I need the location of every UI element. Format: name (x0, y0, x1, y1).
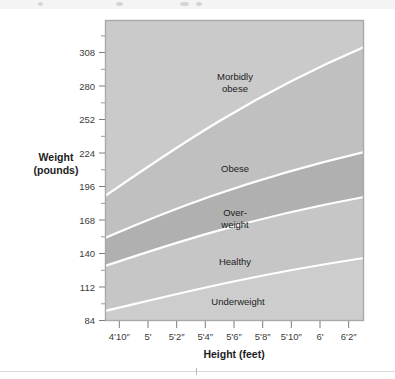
x-axis-title: Height (feet) (203, 348, 264, 360)
y-axis: 84 112 140 168 196 224 252 280 308 (79, 36, 105, 326)
y-tick-label-224: 224 (79, 148, 95, 159)
page-footer-tick (196, 368, 197, 375)
y-tick-label-308: 308 (79, 47, 95, 58)
y-tick-label-168: 168 (79, 215, 95, 226)
band-label-overweight-line2: weight (220, 219, 249, 230)
y-tick-label-280: 280 (79, 81, 95, 92)
y-axis-title: Weight (pounds) (34, 151, 79, 176)
x-tick-label-5-4: 5'4″ (197, 331, 213, 342)
y-tick-label-196: 196 (79, 181, 95, 192)
y-tick-label-112: 112 (80, 282, 95, 293)
x-tick-label-4-10: 4'10″ (109, 331, 131, 342)
y-tick-label-252: 252 (79, 114, 95, 125)
x-tick-label-6-0: 6' (316, 331, 323, 342)
figure-page: Morbidly obese Obese Over- weight Health… (0, 0, 395, 379)
page-footer-rule (0, 371, 395, 372)
y-tick-label-140: 140 (79, 248, 95, 259)
x-tick-label-5-0: 5' (144, 331, 151, 342)
band-label-obese: Obese (221, 163, 249, 174)
y-axis-title-line1: Weight (39, 151, 74, 163)
bmi-chart: Morbidly obese Obese Over- weight Health… (0, 0, 395, 379)
band-label-overweight-line1: Over- (223, 207, 247, 218)
bmi-chart-svg: Morbidly obese Obese Over- weight Health… (0, 0, 395, 379)
x-tick-label-5-8: 5'8″ (255, 331, 271, 342)
x-tick-label-6-2: 6'2″ (341, 331, 357, 342)
x-tick-label-5-10: 5'10″ (281, 331, 303, 342)
y-tick-label-84: 84 (84, 315, 95, 326)
band-label-morbidly-obese-line2: obese (222, 83, 248, 94)
x-tick-label-5-6: 5'6″ (226, 331, 242, 342)
band-label-morbidly-obese-line1: Morbidly (217, 71, 253, 82)
x-axis: 4'10″ 5' 5'2″ 5'4″ 5'6″ 5'8″ 5'10″ 6' 6'… (109, 321, 357, 342)
x-tick-label-5-2: 5'2″ (169, 331, 185, 342)
band-label-healthy: Healthy (219, 256, 251, 267)
band-label-underweight: Underweight (211, 296, 265, 307)
y-axis-title-line2: (pounds) (34, 164, 79, 176)
